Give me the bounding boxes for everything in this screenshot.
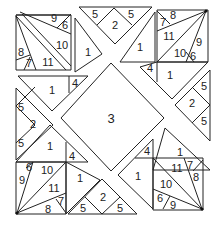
- label-br-6: 6: [157, 192, 163, 204]
- label-bl-11: 11: [48, 182, 59, 194]
- label-tl-8: 8: [18, 46, 24, 58]
- center-label: 3: [107, 111, 114, 126]
- label-bl-10: 10: [41, 164, 53, 176]
- label-tl-10: 10: [56, 39, 68, 51]
- piece-lower-right-1-4: 1 4: [118, 139, 153, 209]
- fan-point: [200, 207, 203, 210]
- label-piece-1: 1: [177, 146, 183, 158]
- label-tc-5a: 5: [92, 8, 98, 20]
- label-piece-4: 4: [72, 77, 78, 89]
- label-tl-11: 11: [42, 56, 53, 68]
- label-tr-10: 10: [174, 47, 186, 59]
- label-tl-9: 9: [51, 12, 57, 24]
- top-left-block: 9 6 10 8 7 11: [16, 12, 71, 70]
- label-r-5a: 5: [201, 80, 207, 92]
- fan-point: [15, 211, 18, 214]
- label-piece-4: 4: [147, 62, 153, 74]
- piece-top-right-1: 1: [120, 12, 155, 62]
- label-tl-7: 7: [26, 57, 32, 69]
- label-tr-6: 6: [190, 50, 196, 62]
- label-br-7: 7: [187, 159, 193, 171]
- label-tc-5b: 5: [128, 8, 134, 20]
- piece-lower-left-1-4: 1 4: [16, 125, 88, 162]
- label-tr-11: 11: [163, 30, 174, 42]
- label-piece-1: 1: [135, 170, 141, 182]
- label-bl-7: 7: [58, 195, 64, 207]
- label-bl-9: 9: [19, 174, 25, 186]
- label-piece-4: 4: [69, 150, 75, 162]
- label-piece-1: 1: [47, 140, 53, 152]
- label-r-5b: 5: [201, 115, 207, 127]
- label-bc-2: 2: [100, 191, 106, 203]
- label-l-5b: 5: [18, 137, 24, 149]
- label-tr-7: 7: [160, 16, 166, 28]
- label-l-2: 2: [30, 118, 36, 130]
- fan-point: [204, 9, 207, 12]
- label-bc-5b: 5: [117, 202, 123, 214]
- label-br-11: 11: [171, 162, 182, 174]
- label-bl-8: 8: [45, 203, 51, 215]
- label-piece-1: 1: [85, 46, 91, 58]
- label-piece-4: 4: [144, 145, 150, 157]
- right-block: 5 2 5: [175, 70, 210, 141]
- label-br-9: 9: [170, 199, 176, 211]
- label-bc-5a: 5: [80, 202, 86, 214]
- label-piece-1: 1: [137, 41, 143, 53]
- label-piece-1: 1: [49, 84, 55, 96]
- bottom-center-block: 5 2 5: [68, 179, 137, 214]
- label-tl-6: 6: [62, 19, 68, 31]
- label-piece-1: 1: [167, 69, 173, 81]
- bottom-left-block: 6 10 9 11 7 8: [15, 161, 66, 215]
- top-right-block: 7 8 11 9 10 6: [157, 9, 208, 62]
- label-tc-2: 2: [112, 19, 118, 31]
- label-r-2: 2: [189, 97, 195, 109]
- label-l-5a: 5: [18, 101, 24, 113]
- label-bl-6: 6: [26, 161, 32, 173]
- label-tr-8: 8: [170, 9, 176, 21]
- label-br-8: 8: [193, 171, 199, 183]
- label-piece-1: 1: [77, 172, 83, 184]
- label-br-10: 10: [160, 178, 172, 190]
- puzzle-diagram: 3 9 6 10 8 7 11 5 2 5 1 1: [0, 0, 221, 228]
- bottom-right-block: 11 7 10 8 6 9: [153, 158, 204, 211]
- label-tr-9: 9: [196, 36, 202, 48]
